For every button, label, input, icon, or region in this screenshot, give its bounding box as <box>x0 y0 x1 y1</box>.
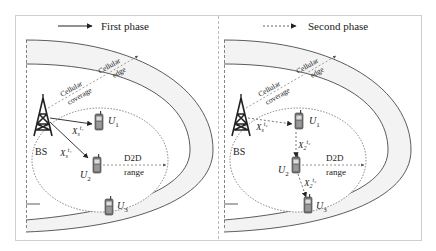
user-u1-phone-icon <box>295 110 303 129</box>
d2d-diagram: First phase Second phase Cellular covera… <box>0 0 436 251</box>
d2d-label: D2D <box>326 153 344 163</box>
bs-label: BS <box>233 146 245 157</box>
legend-first-label: First phase <box>101 20 149 32</box>
legend-second-phase: Second phase <box>263 20 368 32</box>
panel-first-phase: Cellular coverage Cellular edge BS Xst₁ … <box>26 40 213 232</box>
legend-first-phase: First phase <box>58 20 149 32</box>
user-u2-phone-icon <box>93 154 101 173</box>
user-u3-phone-icon <box>304 194 312 213</box>
d2d-range-label: range <box>326 167 346 177</box>
base-station-tower-icon <box>34 94 52 136</box>
user-u3-phone-icon <box>105 196 113 215</box>
bs-label: BS <box>35 146 47 157</box>
user-u1-phone-icon <box>95 111 103 130</box>
d2d-range-label: range <box>124 167 144 177</box>
base-station-tower-icon <box>232 94 250 136</box>
panel-second-phase: Cellular coverage Cellular edge BS Xst₂ … <box>224 40 411 232</box>
legend-second-label: Second phase <box>308 20 368 32</box>
d2d-label: D2D <box>124 153 142 163</box>
user-u2-phone-icon <box>292 154 300 173</box>
